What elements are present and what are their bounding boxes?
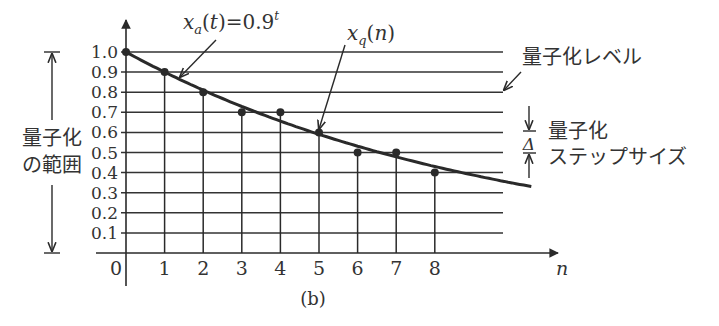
sample-point	[276, 108, 284, 116]
x-tick-label: 1	[159, 257, 171, 279]
sample-label-arrow	[319, 45, 345, 129]
figure-caption: (b)	[300, 288, 326, 309]
y-tick-label: 0.5	[91, 143, 118, 163]
x-axis-label: n	[556, 257, 568, 279]
sample-point	[354, 149, 362, 157]
x-tick-label: 0	[110, 257, 122, 279]
quantization-level-arrow	[504, 72, 521, 90]
x-tick-label: 3	[236, 257, 248, 279]
x-tick-label: 5	[313, 257, 325, 279]
x-tick-label: 4	[274, 257, 286, 279]
quantization-level-label: 量子化レベル	[522, 45, 642, 69]
step-label-line2: ステップサイズ	[548, 145, 687, 169]
range-label-line1: 量子化	[22, 126, 82, 150]
sample-point	[431, 169, 439, 177]
x-tick-label: 2	[197, 257, 209, 279]
quantization-chart: 0.10.20.30.40.50.60.70.80.91.0 012345678…	[0, 0, 719, 326]
y-tick-label: 0.3	[91, 183, 118, 203]
x-tick-label: 6	[352, 257, 364, 279]
sample-point	[238, 108, 246, 116]
y-tick-labels: 0.10.20.30.40.50.60.70.80.91.0	[91, 42, 118, 243]
x-tick-label: 8	[429, 257, 441, 279]
sample-stems	[122, 48, 439, 253]
sample-label: xq(n)	[347, 21, 395, 48]
step-label-line1: 量子化	[548, 119, 608, 143]
y-tick-label: 0.4	[91, 163, 118, 183]
curve-label: xa(t)=0.9t	[183, 9, 279, 37]
y-tick-label: 0.6	[91, 122, 118, 142]
y-tick-label: 0.9	[91, 62, 118, 82]
y-tick-label: 0.1	[91, 223, 118, 243]
range-label-line2: の範囲	[22, 153, 82, 177]
y-tick-label: 0.8	[91, 82, 118, 102]
y-tick-label: 1.0	[91, 42, 118, 62]
step-symbol: Δ	[522, 134, 535, 154]
x-tick-label: 7	[390, 257, 402, 279]
y-tick-label: 0.2	[91, 203, 118, 223]
y-tick-label: 0.7	[91, 102, 118, 122]
x-tick-labels: 012345678	[110, 257, 441, 279]
